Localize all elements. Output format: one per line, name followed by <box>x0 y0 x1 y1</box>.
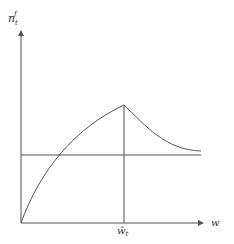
rising-curve <box>21 105 124 223</box>
decaying-curve <box>124 105 201 151</box>
x-tick-label: ŵt <box>117 225 129 238</box>
diagram: ntf w ŵt <box>0 0 234 244</box>
x-axis-label: w <box>211 217 220 228</box>
y-axis-label: ntf <box>8 10 18 27</box>
